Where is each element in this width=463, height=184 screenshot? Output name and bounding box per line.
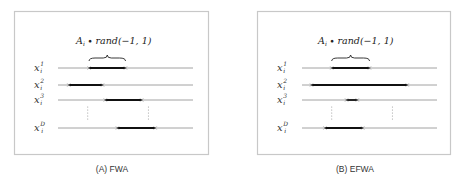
amplitude-formula: Ai ∙ rand(−1, 1)	[75, 35, 152, 47]
vertical-ellipsis-dot	[87, 118, 88, 119]
vertical-ellipsis-dot	[331, 106, 332, 107]
vertical-ellipsis-dot	[148, 109, 149, 110]
fireworks-explosion-diagram: Ai ∙ rand(−1, 1) x1ix2ix3ixDi (A) FWA Ai…	[0, 0, 463, 184]
vertical-ellipsis-dot	[148, 115, 149, 116]
vertical-ellipsis-dot	[331, 118, 332, 119]
vertical-ellipsis-dot	[392, 106, 393, 107]
dimension-label: x1i	[34, 60, 44, 74]
panel-efwa: Ai ∙ rand(−1, 1) x1ix2ix3ixDi (B) EFWA	[258, 12, 451, 175]
vertical-ellipsis-dot	[87, 112, 88, 113]
dimension-label: xDi	[277, 120, 288, 134]
panel-fwa: Ai ∙ rand(−1, 1) x1ix2ix3ixDi (A) FWA	[15, 12, 209, 175]
amplitude-formula: Ai ∙ rand(−1, 1)	[317, 35, 394, 47]
vertical-ellipsis-dot	[148, 106, 149, 107]
vertical-ellipsis-dot	[392, 115, 393, 116]
vertical-ellipsis-dot	[392, 109, 393, 110]
curly-brace	[332, 55, 370, 61]
dimension-label: x2i	[277, 77, 287, 91]
dimension-label: x2i	[34, 77, 44, 91]
vertical-ellipsis-dot	[392, 112, 393, 113]
vertical-ellipsis-dot	[87, 115, 88, 116]
vertical-ellipsis-dot	[331, 109, 332, 110]
dimension-label: x3i	[34, 92, 44, 106]
vertical-ellipsis-dot	[331, 112, 332, 113]
vertical-ellipsis-dot	[331, 115, 332, 116]
curly-brace	[89, 55, 125, 61]
vertical-ellipsis-dot	[148, 118, 149, 119]
caption-fwa: (A) FWA	[96, 164, 129, 174]
caption-efwa: (B) EFWA	[336, 164, 374, 174]
dimension-label: x1i	[277, 60, 287, 74]
dimension-label: xDi	[34, 120, 45, 134]
vertical-ellipsis-dot	[148, 112, 149, 113]
vertical-ellipsis-dot	[392, 118, 393, 119]
dimension-label: x3i	[277, 92, 287, 106]
vertical-ellipsis-dot	[87, 109, 88, 110]
vertical-ellipsis-dot	[87, 106, 88, 107]
